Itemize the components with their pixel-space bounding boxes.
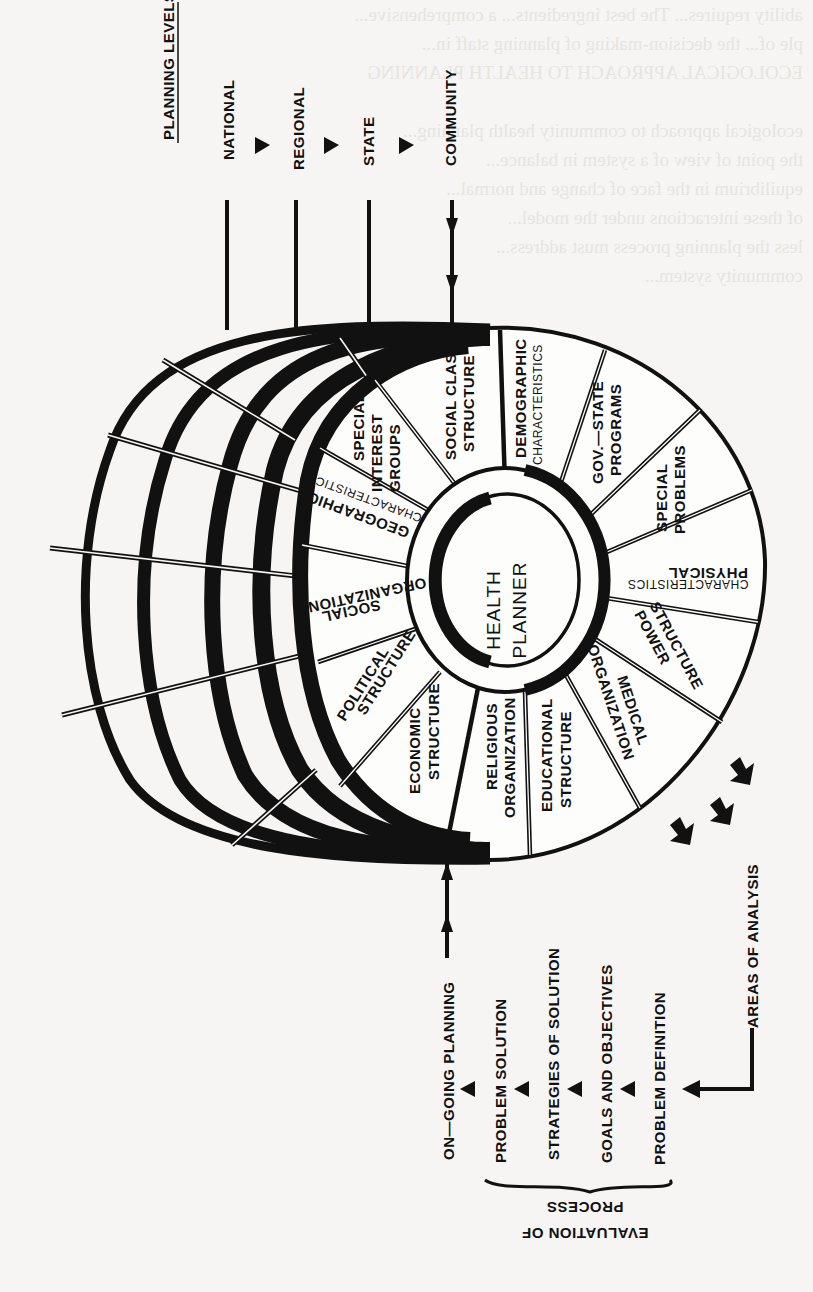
segment-educational-l1: EDUCATIONAL bbox=[538, 698, 555, 812]
areas-of-analysis-label: AREAS OF ANALYSIS bbox=[744, 864, 761, 1028]
segment-sig-l3: GROUPS bbox=[386, 424, 403, 492]
process-step-ongoing-planning: ON—GOING PLANNING bbox=[440, 981, 457, 1160]
arrow-down-right-icon bbox=[710, 797, 734, 825]
segment-demographic-l2: CHARACTERISTICS bbox=[531, 344, 545, 465]
arrow-left-icon bbox=[682, 1080, 700, 1098]
segment-gov-state-l2: PROGRAMS bbox=[607, 384, 624, 476]
health-planning-diagram: HEALTH PLANNER SOCIAL CLASS STRUCTURE DE… bbox=[0, 0, 813, 1292]
arrow-right-icon bbox=[399, 137, 414, 154]
arrow-down-icon bbox=[446, 275, 458, 293]
segment-social-class-l2: STRUCTURE bbox=[460, 355, 477, 452]
arrow-down-right-icon bbox=[670, 817, 694, 845]
segment-sig-l1: SPECIAL bbox=[350, 392, 367, 461]
segment-economic-l1: ECONOMIC bbox=[406, 708, 423, 795]
arrow-down-right-icon bbox=[730, 757, 754, 785]
segment-religious-l1: RELIGIOUS bbox=[483, 703, 500, 790]
process-step-problem-definition: PROBLEM DEFINITION bbox=[651, 992, 668, 1165]
arrow-left-icon bbox=[567, 1081, 582, 1097]
process-step-strategies: STRATEGIES OF SOLUTION bbox=[545, 948, 562, 1160]
arrow-up-icon bbox=[441, 914, 453, 932]
arrow-left-icon bbox=[620, 1081, 635, 1097]
arrow-left-icon bbox=[514, 1081, 529, 1097]
segment-special-problems-l2: PROBLEMS bbox=[671, 445, 688, 534]
segment-demographic-l1: DEMOGRAPHIC bbox=[512, 338, 529, 458]
arrow-right-icon bbox=[324, 137, 339, 154]
level-national: NATIONAL bbox=[220, 80, 237, 160]
brace-label-process: PROCESS bbox=[547, 1199, 624, 1216]
arrow-up-icon bbox=[441, 862, 453, 880]
process-brace bbox=[485, 1180, 671, 1192]
brace-label-evaluation: EVALUATION OF bbox=[522, 1225, 649, 1242]
level-state: STATE bbox=[360, 117, 377, 166]
level-community: COMMUNITY bbox=[442, 69, 459, 166]
level-regional: REGIONAL bbox=[290, 87, 307, 170]
process-step-problem-solution: PROBLEM SOLUTION bbox=[492, 998, 509, 1163]
planning-levels-heading: PLANNING LEVELS bbox=[160, 0, 177, 140]
segment-economic-l2: STRUCTURE bbox=[425, 683, 442, 780]
planning-levels: PLANNING LEVELS NATIONAL REGIONAL STATE … bbox=[160, 0, 459, 338]
arrow-right-icon bbox=[255, 137, 270, 154]
center-label-line2: PLANNER bbox=[509, 562, 530, 659]
health-planner-hub: HEALTH PLANNER bbox=[407, 468, 605, 692]
segment-special-problems-l1: SPECIAL bbox=[653, 463, 670, 532]
arrow-left-icon bbox=[460, 1081, 475, 1097]
process-step-goals: GOALS AND OBJECTIVES bbox=[598, 964, 615, 1163]
segment-gov-state-l1: GOV.—STATE bbox=[589, 381, 606, 484]
segment-educational-l2: STRUCTURE bbox=[557, 711, 574, 808]
segment-physical-l2: CHARACTERISTICS bbox=[628, 577, 749, 591]
center-label-line1: HEALTH bbox=[483, 570, 504, 650]
process-steps: ON—GOING PLANNING PROBLEM SOLUTION STRAT… bbox=[440, 864, 761, 1242]
segment-religious-l2: ORGANIZATION bbox=[501, 697, 518, 818]
segment-sig-l2: INTEREST bbox=[368, 414, 385, 492]
segment-social-class-l1: SOCIAL CLASS bbox=[442, 343, 459, 460]
arrow-down-icon bbox=[446, 218, 458, 236]
